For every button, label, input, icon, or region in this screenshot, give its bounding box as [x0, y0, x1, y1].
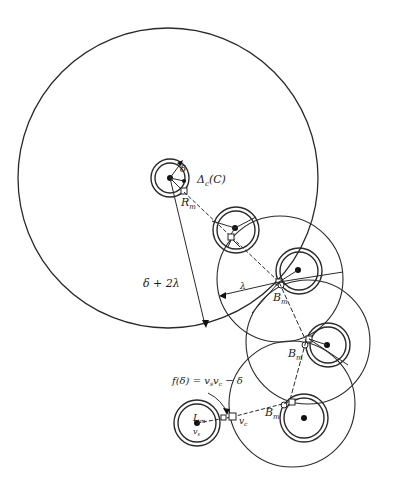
diagram-canvas: δ Δc(C) Rm δ + 2λ λ Bm Bm Bm f(δ) = vsvc… — [0, 0, 393, 493]
f-delta-label: f(δ) = vsvc − δ — [171, 375, 243, 387]
delta-label: δ — [180, 163, 186, 174]
v-c-square — [229, 413, 236, 420]
ring-5 — [280, 394, 328, 442]
svg-text:f(δ) = vsvc − δ: f(δ) = vsvc − δ — [171, 375, 243, 387]
svg-text:Lm: Lm — [192, 412, 206, 424]
b-m-label-1: Bm — [272, 291, 288, 306]
l-m-label: Lm — [192, 412, 206, 424]
svg-text:vc: vc — [239, 416, 248, 427]
b-m-label-3: Bm — [264, 406, 280, 421]
svg-text:Bm: Bm — [287, 347, 303, 362]
b-m-3-square — [289, 399, 295, 405]
r-m-square — [181, 188, 187, 194]
v-s-label: vs — [193, 427, 201, 437]
b-m-label-2: Bm — [287, 347, 303, 362]
radius-label: δ + 2λ — [143, 277, 180, 290]
svg-text:Rm: Rm — [180, 196, 196, 211]
svg-text:Δc(C): Δc(C) — [196, 173, 226, 188]
svg-text:Bm: Bm — [264, 406, 280, 421]
r-m-label: Rm — [180, 196, 196, 211]
svg-text:Bm: Bm — [272, 291, 288, 306]
svg-text:vs: vs — [193, 427, 201, 437]
v-c-label: vc — [239, 416, 248, 427]
ring-2 — [213, 207, 259, 253]
lambda-label: λ — [239, 281, 246, 291]
delta-c-label: Δc(C) — [196, 173, 226, 188]
